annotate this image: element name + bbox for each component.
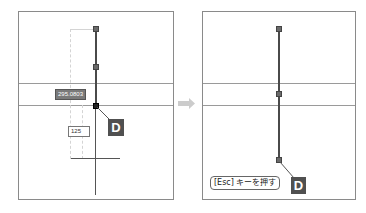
badge-leader-line xyxy=(203,12,357,201)
right-arrow-icon xyxy=(178,98,196,109)
badge-leader-line xyxy=(19,12,175,201)
point-d-badge: D xyxy=(108,119,124,136)
esc-key-instruction: [Esc] キーを押す xyxy=(210,176,280,190)
right-drawing-canvas[interactable]: [Esc] キーを押す D xyxy=(202,11,356,200)
left-drawing-canvas[interactable]: 295.0803 125 D xyxy=(18,11,174,200)
point-d-badge: D xyxy=(291,177,306,194)
